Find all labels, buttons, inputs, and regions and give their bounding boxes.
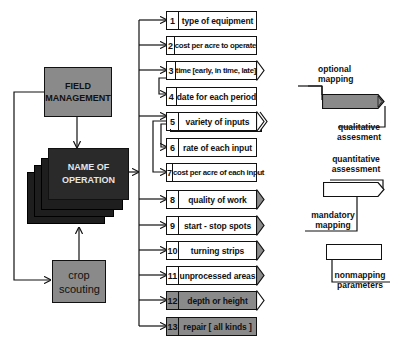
field-management-node: FIELD MANAGEMENT (44, 67, 112, 117)
parameter-number: 12 (167, 292, 179, 309)
parameter-label: cost per acre to operate (175, 37, 256, 54)
field-management-label: FIELD MANAGEMENT (45, 80, 111, 104)
name-of-operation-label: NAME OF OPERATION (59, 161, 119, 187)
parameter-label: time [early, in time, late] (176, 62, 256, 79)
parameter-number: 9 (167, 217, 179, 234)
parameter-number: 6 (167, 139, 179, 156)
parameter-label: turning strips (179, 242, 256, 259)
legend-optional-mapping-swatch (322, 95, 384, 109)
parameter-item: 6rate of each input (166, 138, 257, 157)
parameter-label: cost per acre of each input (173, 164, 264, 181)
parameter-number: 2 (167, 37, 175, 54)
parameter-label: type of equipment (179, 12, 256, 29)
parameter-item: 11unprocessed areas (166, 266, 257, 285)
legend-nonmapping-swatch (326, 244, 382, 260)
parameter-label: unprocessed areas (179, 267, 256, 284)
parameter-number: 10 (167, 242, 179, 259)
white-arrow-icon (256, 60, 270, 81)
parameter-number: 4 (167, 88, 177, 105)
legend-optional-mapping-label: optional mapping (318, 64, 368, 84)
parameter-label: variety of inputs (179, 113, 256, 130)
parameter-label: quality of work (179, 191, 256, 208)
parameter-number: 13 (167, 318, 179, 335)
crop-scouting-node: crop scouting (52, 260, 106, 303)
parameter-label: start - stop spots (179, 217, 256, 234)
parameter-item: 8quality of work (166, 190, 257, 209)
gray-arrow-icon (256, 240, 270, 261)
parameter-number: 3 (167, 62, 176, 79)
parameter-item: 12depth or height (166, 291, 257, 310)
legend-mandatory-label: mandatory mapping (310, 210, 356, 230)
parameter-label: date for each period (177, 88, 256, 105)
parameter-label: rate of each input (179, 139, 256, 156)
name-of-operation-node: NAME OF OPERATION (48, 148, 129, 200)
parameter-number: 11 (167, 267, 179, 284)
parameter-label: repair [ all kinds ] (179, 318, 256, 335)
legend-nonmapping-label: nonmapping parameters (332, 270, 388, 290)
parameter-item: 7cost per acre of each input (166, 163, 257, 182)
parameter-item: 13repair [ all kinds ] (166, 317, 257, 336)
legend-mandatory-mapping-swatch (323, 183, 385, 197)
legend-qualitative-label: qualitative assesment (334, 122, 384, 142)
parameter-item: 3time [early, in time, late] (166, 61, 257, 80)
gray-arrow-icon (256, 189, 270, 210)
parameter-item: 9start - stop spots (166, 216, 257, 235)
parameter-item: 1type of equipment (166, 11, 257, 30)
parameter-item: 4date for each period (166, 87, 257, 106)
gray-arrow-icon (256, 265, 270, 286)
parameter-item: 10turning strips (166, 241, 257, 260)
parameter-number: 8 (167, 191, 179, 208)
white-arrow-icon (256, 290, 270, 311)
parameter-number: 1 (167, 12, 179, 29)
item-5-shadow-outline (170, 129, 262, 132)
parameter-number: 5 (167, 113, 179, 130)
gray-arrow-icon (256, 215, 270, 236)
parameter-label: depth or height (179, 292, 256, 309)
crop-scouting-label: crop scouting (59, 268, 99, 296)
parameter-item: 2cost per acre to operate (166, 36, 257, 55)
legend-quantitative-label: quantitative assessment (328, 154, 384, 174)
